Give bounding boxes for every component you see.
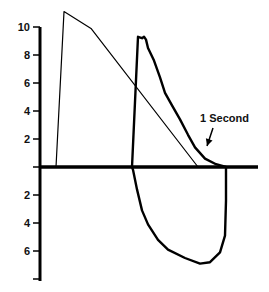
y-tick-label: 8 [24, 49, 30, 61]
y-tick-label: 4 [24, 105, 31, 117]
y-ticks: 108642246 [18, 21, 40, 279]
y-tick-label: 2 [24, 133, 30, 145]
flow-volume-loop-line [132, 37, 226, 264]
axes [39, 27, 258, 281]
annotation-label: 1 Second [200, 112, 249, 124]
annotations: 1 Second [200, 112, 249, 181]
y-tick-label: 6 [24, 77, 30, 89]
y-tick-label: 6 [24, 245, 30, 257]
series-group [56, 12, 226, 264]
annotation-arrowhead [206, 138, 213, 146]
y-tick-label: 10 [18, 21, 30, 33]
reference-expiratory-curve-line [56, 12, 198, 167]
flow-volume-chart: 108642246 1 Second [0, 0, 269, 292]
y-tick-label: 4 [24, 217, 31, 229]
y-tick-label: 2 [24, 189, 30, 201]
